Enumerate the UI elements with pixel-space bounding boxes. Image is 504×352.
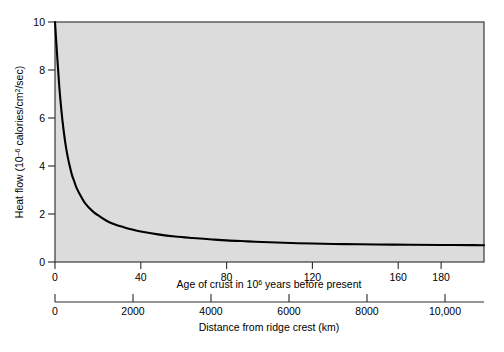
y-axis-title-post: calories/cm [13, 92, 25, 148]
y-axis-title-sup: –6 [14, 148, 21, 156]
y-axis-title-pre: Heat flow (10 [13, 156, 25, 218]
age-tick-label-180: 180 [432, 271, 450, 283]
distance-tick-label-0: 0 [52, 305, 58, 317]
y-axis-title-post2: /sec) [13, 66, 25, 89]
distance-tick-label-8000: 8000 [355, 305, 379, 317]
distance-axis-title-text: Distance from ridge crest (km) [199, 321, 340, 333]
y-tick-label-4: 4 [39, 160, 45, 172]
distance-tick-label-6000: 6000 [277, 305, 301, 317]
svg-text:Age of crust in 106 years befo: Age of crust in 106 years before present [177, 278, 362, 290]
distance-axis-title: Distance from ridge crest (km) [199, 321, 340, 333]
svg-text:Heat flow (10–6 calories/cm2/s: Heat flow (10–6 calories/cm2/sec) [13, 66, 25, 218]
age-tick-label-0: 0 [52, 271, 58, 283]
y-axis-title: Heat flow (10–6 calories/cm2/sec) [13, 66, 25, 218]
age-tick-label-40: 40 [135, 271, 147, 283]
distance-tick-label-4000: 4000 [199, 305, 223, 317]
heat-flow-chart: 0246810 Heat flow (10–6 calories/cm2/sec… [0, 0, 504, 352]
y-tick-label-0: 0 [39, 256, 45, 268]
y-tick-label-6: 6 [39, 112, 45, 124]
age-tick-label-160: 160 [389, 271, 407, 283]
age-axis-title: Age of crust in 106 years before present [177, 278, 362, 290]
y-tick-label-2: 2 [39, 208, 45, 220]
distance-tick-label-10000: 10,000 [429, 305, 461, 317]
distance-tick-label-2000: 2000 [121, 305, 145, 317]
heat-flow-figure: 0246810 Heat flow (10–6 calories/cm2/sec… [0, 0, 504, 352]
y-tick-label-10: 10 [33, 16, 45, 28]
age-axis-title-post: years before present [262, 278, 361, 290]
y-tick-label-8: 8 [39, 64, 45, 76]
age-axis-title-pre: Age of crust in 10 [177, 278, 259, 290]
